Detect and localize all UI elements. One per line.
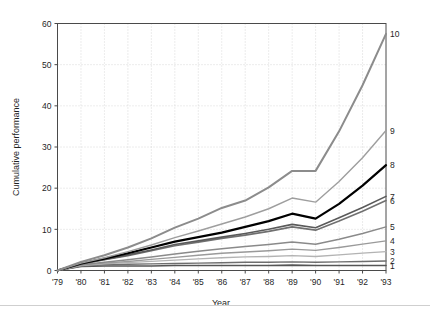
x-tick-labels: '79'80'81'82'83'84'85'86'87'88'89'90'91'…	[52, 277, 392, 287]
series-label-4: 4	[390, 236, 395, 246]
chart-figure: 0102030405060 '79'80'81'82'83'84'85'86'8…	[0, 0, 430, 314]
x-tick-marks	[55, 24, 387, 274]
series-label-2: 2	[390, 256, 395, 266]
y-tick-label: 40	[42, 101, 52, 111]
x-tick-label: '91	[334, 277, 345, 287]
series-label-5: 5	[390, 222, 395, 232]
y-tick-label: 60	[42, 19, 52, 29]
y-axis-label: Cumulative performance	[11, 98, 21, 196]
x-tick-label: '82	[122, 277, 133, 287]
x-tick-label: '93	[380, 277, 391, 287]
series-line-6	[58, 201, 387, 271]
x-tick-label: '89	[287, 277, 298, 287]
x-tick-label: '92	[357, 277, 368, 287]
cumulative-performance-line-chart: 0102030405060 '79'80'81'82'83'84'85'86'8…	[0, 0, 430, 314]
bottom-band	[0, 306, 430, 314]
x-tick-label: '80	[75, 277, 86, 287]
y-tick-labels: 0102030405060	[42, 19, 52, 276]
x-tick-label: '87	[240, 277, 251, 287]
series-label-3: 3	[390, 247, 395, 257]
y-tick-label: 20	[42, 183, 52, 193]
series-label-10: 10	[390, 29, 400, 39]
x-tick-label: '86	[216, 277, 227, 287]
series-label-9: 9	[390, 126, 395, 136]
x-tick-label: '84	[169, 277, 180, 287]
y-tick-label: 10	[42, 225, 52, 235]
series-end-labels: 12345678910	[390, 29, 400, 271]
x-tick-label: '90	[310, 277, 321, 287]
y-tick-label: 0	[47, 266, 52, 276]
x-tick-label: '85	[193, 277, 204, 287]
x-tick-label: '83	[146, 277, 157, 287]
x-tick-label: '81	[99, 277, 110, 287]
y-tick-label: 50	[42, 60, 52, 70]
series-label-8: 8	[390, 160, 395, 170]
x-tick-label: '88	[263, 277, 274, 287]
y-tick-label: 30	[42, 142, 52, 152]
x-tick-label: '79	[52, 277, 63, 287]
series-label-7: 7	[390, 192, 395, 202]
